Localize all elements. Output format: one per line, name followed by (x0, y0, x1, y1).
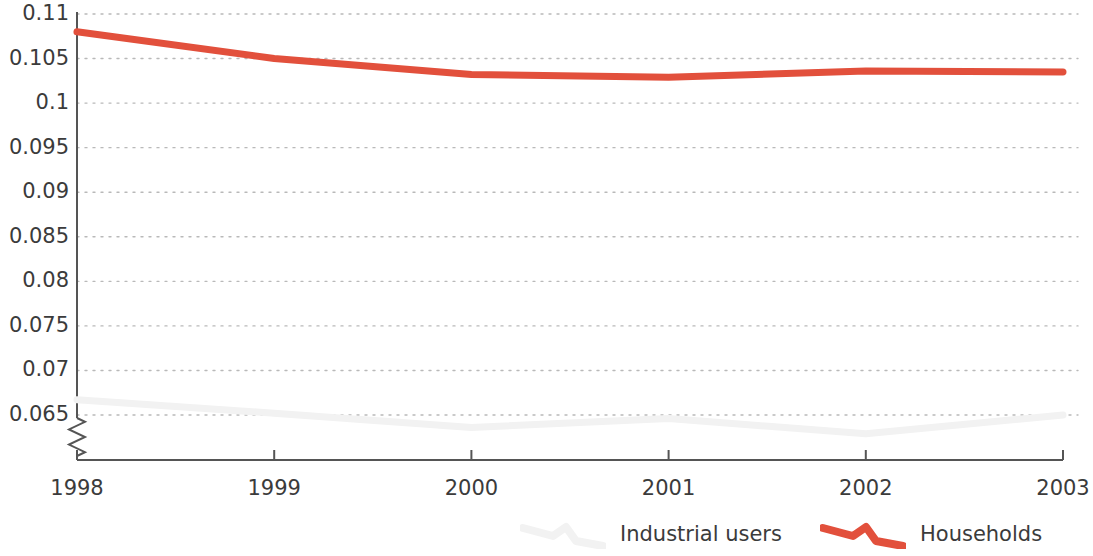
x-tick-label: 2000 (411, 478, 531, 499)
y-tick-label: 0.09 (22, 181, 69, 202)
legend-label-households: Households (920, 524, 1042, 545)
y-tick-label: 0.08 (22, 270, 69, 291)
data-series-group (77, 32, 1063, 434)
x-tick-label: 1999 (214, 478, 334, 499)
y-tick-label: 0.07 (22, 359, 69, 380)
legend-item-industrial-users[interactable]: Industrial users (520, 512, 782, 556)
series-line (77, 400, 1063, 434)
legend-label-industrial-users: Industrial users (620, 524, 782, 545)
zigzag-line-marker-icon (520, 519, 606, 549)
y-tick-label: 0.105 (9, 48, 69, 69)
y-tick-label: 0.065 (9, 404, 69, 425)
zigzag-line-marker-icon (820, 519, 906, 549)
series-line (77, 32, 1063, 77)
x-tick-label: 2001 (609, 478, 729, 499)
x-tick-label: 1998 (17, 478, 137, 499)
legend-item-households[interactable]: Households (820, 512, 1042, 556)
x-tick-label: 2003 (1003, 478, 1093, 499)
x-tick-label: 2002 (806, 478, 926, 499)
y-tick-label: 0.1 (36, 92, 69, 113)
y-tick-label: 0.095 (9, 137, 69, 158)
y-tick-label: 0.11 (22, 3, 69, 24)
x-tick-marks-group (77, 450, 1063, 460)
chart-legend: Industrial users Households (0, 512, 1082, 556)
y-tick-label: 0.075 (9, 315, 69, 336)
y-tick-label: 0.085 (9, 226, 69, 247)
